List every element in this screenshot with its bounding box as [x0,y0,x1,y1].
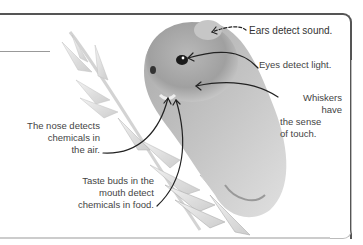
label-whiskers: Whiskers have the sense of touch. [280,92,342,140]
label-ears: Ears detect sound. [249,25,332,37]
label-nose: The nose detects chemicals in the air. [10,120,100,156]
label-eyes: Eyes detect light. [259,59,331,71]
mouse [144,20,286,217]
label-taste: Taste buds in the mouth detect chemicals… [55,175,154,211]
